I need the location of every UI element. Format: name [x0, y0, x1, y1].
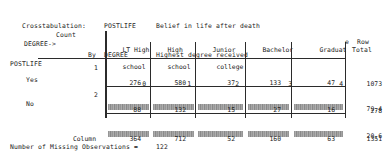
grand-total-count: 1351	[348, 135, 382, 143]
column-total-count: 63	[294, 135, 343, 143]
column-rule-0	[150, 42, 151, 118]
crosstab-report: Crosstabulation:POSTLIFEBelief in life a…	[0, 0, 389, 158]
column-total-count: 364	[108, 135, 149, 143]
column-header-4-line1: Graduat	[319, 46, 346, 54]
cell-count: 580	[153, 79, 194, 87]
missing-observations-value: 122	[138, 143, 168, 151]
cell-count: 15	[198, 106, 243, 114]
row-total-count: 278	[348, 107, 382, 115]
column-total-count: 160	[248, 135, 289, 143]
row-total-count: 1073	[348, 80, 382, 88]
column-total-bachelor: 160 11.8	[248, 118, 289, 158]
column-variable-label: DEGREE->	[24, 40, 56, 48]
column-total-junior-college: 52 3.8	[198, 118, 243, 158]
cell-count: 88	[108, 106, 149, 114]
row-label-no: No	[26, 100, 34, 108]
column-header-0-line1: LT High	[122, 46, 149, 54]
missing-observations-label: Number of Missing Observations =	[10, 143, 138, 151]
column-total-high-school: 712 52.7	[153, 118, 194, 158]
cell-count: 47	[294, 79, 343, 87]
column-header-2-line1: Junior	[212, 46, 235, 54]
column-rule-1	[195, 42, 196, 118]
column-total-count: 52	[198, 135, 243, 143]
column-total-graduate: 63 4.7	[294, 118, 343, 158]
cell-count: 133	[248, 79, 289, 87]
column-rule-2	[245, 42, 246, 118]
column-total-label-line1: Column	[56, 135, 96, 143]
column-rule-4	[345, 42, 346, 118]
cell-count: 27	[248, 106, 289, 114]
column-total-label: Column Total	[56, 118, 96, 158]
row-code-no: 2	[88, 91, 98, 99]
report-row-variable-description: Belief in life after death	[156, 22, 260, 32]
cell-count: 276	[108, 79, 149, 87]
header-rule	[38, 58, 106, 59]
column-rule-3	[291, 42, 292, 118]
row-total-header-line1: e Row	[345, 38, 369, 46]
cell-key-label: Count	[56, 31, 76, 39]
column-header-1-line1: High	[167, 46, 182, 54]
cell-count: 132	[153, 106, 194, 114]
row-label-yes: Yes	[26, 76, 38, 84]
column-header-3-line1: Bachelor	[262, 46, 293, 54]
grand-total: 1351 100.0	[348, 118, 382, 158]
report-row-variable-name: POSTLIFE	[104, 22, 156, 32]
row-code-yes: 1	[88, 64, 98, 72]
missing-observations-line: Number of Missing Observations =122	[10, 143, 168, 151]
row-total-header-line2: Total	[352, 46, 372, 54]
column-total-lt-high-school: 364 26.9	[108, 118, 149, 158]
cell-count: 16	[294, 106, 343, 114]
column-total-count: 712	[153, 135, 194, 143]
cell-count: 37	[198, 79, 243, 87]
stub-vertical-rule-2	[106, 31, 107, 118]
row-variable-label: POSTLIFE	[10, 60, 42, 68]
header-rule-cols	[106, 58, 346, 59]
